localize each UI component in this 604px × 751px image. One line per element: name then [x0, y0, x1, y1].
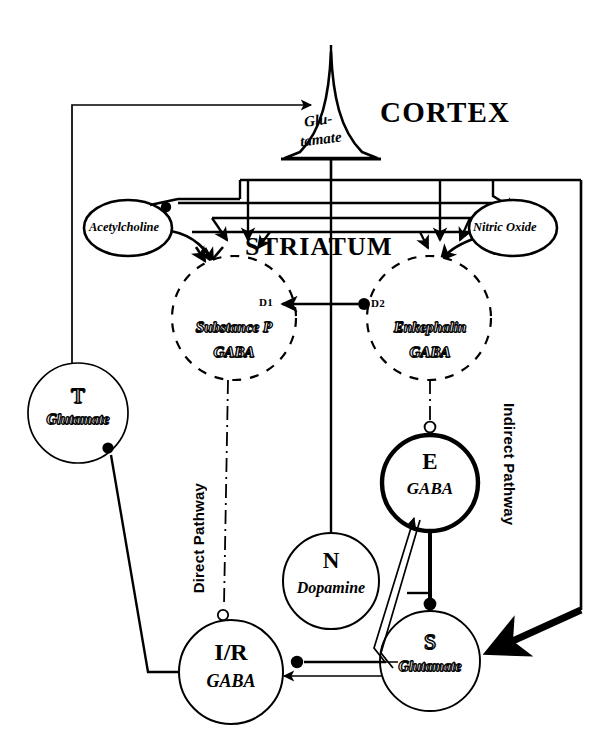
- substantia-nigra-letter: N: [301, 548, 361, 574]
- bouton-filled: [291, 656, 303, 668]
- nitric-oxide-label: Nitric Oxide: [473, 220, 537, 235]
- external-pallidum-letter: E: [400, 449, 460, 475]
- nigrostriatal-dopamine-axon: [282, 249, 370, 533]
- thalamus-letter: T: [48, 383, 108, 409]
- enkephalin-line1: Enkephalin: [368, 319, 492, 336]
- indirect-pathway-label: Indirect Pathway: [501, 403, 518, 525]
- striatum-region-label: STRIATUM: [245, 232, 393, 262]
- external-pallidum-transmitter: GABA: [390, 479, 470, 499]
- bouton-filled: [424, 598, 437, 611]
- bouton-filled: [102, 442, 113, 453]
- bouton-open: [425, 422, 436, 433]
- acetylcholine-label: Acetylcholine: [89, 220, 159, 235]
- d2-receptor-label: D2: [371, 297, 385, 309]
- bouton-filled: [358, 298, 370, 310]
- cortico-subthalamic-arrow: [493, 610, 581, 650]
- substantia-nigra-transmitter: Dopamine: [281, 579, 381, 597]
- substance-p-line2: GABA: [172, 344, 296, 361]
- diagram-canvas: CORTEX Glu- tamate STRIATUM Acetylcholin…: [0, 0, 604, 751]
- striatal-neuron-substance-p: [172, 256, 296, 380]
- direct-pathway-projection: [218, 380, 228, 620]
- bouton-open: [218, 610, 228, 620]
- indirect-pathway-projection: [425, 380, 436, 432]
- enkephalin-line2: GABA: [368, 344, 492, 361]
- substance-p-line1: Substance P: [172, 319, 296, 336]
- internal-pallidum-letter: I/R: [196, 639, 266, 666]
- cortex-region-label: CORTEX: [380, 96, 510, 129]
- subthalamic-transmitter: Glutamate: [372, 658, 488, 675]
- d1-receptor-label: D1: [259, 296, 273, 308]
- subthalamic-letter: S: [400, 629, 460, 655]
- cortex-transmitter-line1: Glu-: [303, 110, 333, 130]
- internal-pallidum-transmitter: GABA: [191, 671, 271, 692]
- diagram-vector-layer: [0, 0, 604, 751]
- striatal-neuron-enkephalin: [367, 256, 491, 380]
- bouton-filled: [161, 202, 171, 212]
- thalamus-transmitter: Glutamate: [20, 411, 136, 428]
- direct-pathway-label: Direct Pathway: [190, 483, 207, 593]
